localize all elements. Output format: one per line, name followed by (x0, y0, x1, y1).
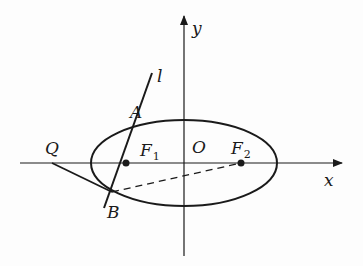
segment-QB (52, 163, 112, 192)
segment-BF2-dashed (112, 163, 241, 192)
x-axis-label: x (324, 170, 334, 190)
focus-F1-dot (123, 160, 130, 167)
focus-F2-label: F2 (230, 138, 251, 161)
point-B-label: B (106, 202, 120, 222)
line-l-label: l (157, 66, 162, 86)
ellipse-diagram: y x O l A B Q F1 F2 (0, 0, 363, 266)
origin-label: O (192, 137, 206, 157)
point-Q-label: Q (45, 138, 59, 158)
focus-F1-label: F1 (139, 140, 160, 163)
y-axis-label: y (191, 18, 202, 38)
point-A-label: A (128, 102, 142, 122)
diagram-svg: y x O l A B Q F1 F2 (0, 0, 363, 266)
